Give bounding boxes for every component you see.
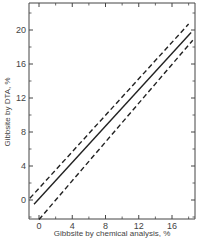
y-tick-label: 16 xyxy=(16,59,26,69)
x-tick-label: 0 xyxy=(36,221,41,231)
ticks xyxy=(29,3,195,219)
x-axis-title: Gibbsite by chemical analysis, % xyxy=(54,229,171,238)
y-tick-label: 20 xyxy=(16,25,26,35)
chart: 0481216048121620 Gibbsite by chemical an… xyxy=(0,0,200,242)
plot-frame xyxy=(29,3,195,219)
regression-line xyxy=(34,33,191,205)
y-tick-label: 4 xyxy=(21,161,26,171)
confidence-limit-line xyxy=(30,24,189,198)
data-series xyxy=(30,24,193,220)
y-tick-label: 0 xyxy=(21,195,26,205)
tick-labels: 0481216048121620 xyxy=(16,25,177,231)
y-tick-label: 12 xyxy=(16,93,26,103)
y-tick-label: 8 xyxy=(21,127,26,137)
y-axis-title: Gibbsite by DTA, % xyxy=(3,77,12,146)
confidence-limit-line xyxy=(39,40,193,219)
